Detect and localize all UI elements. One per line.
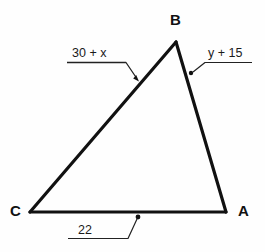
side-measure-label-cb: 30 + x [72, 47, 106, 60]
side-measure-label-ba: y + 15 [208, 47, 242, 60]
leader-dot-icon [189, 71, 193, 75]
leader-dot-icon [136, 215, 141, 220]
diagram-background [0, 0, 265, 252]
triangle-diagram [0, 0, 265, 252]
side-measure-label-ca: 22 [78, 224, 92, 237]
vertex-label-a: A [238, 203, 249, 218]
vertex-label-c: C [10, 203, 21, 218]
vertex-label-b: B [170, 12, 181, 27]
